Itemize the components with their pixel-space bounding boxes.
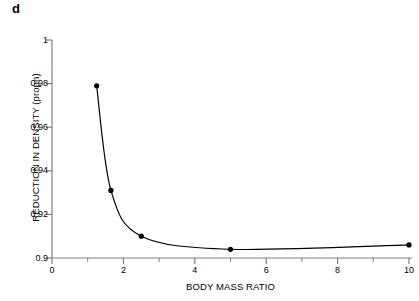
x-tick-label: 0 [37,266,67,275]
x-tick-label: 4 [180,266,210,275]
x-tick-label: 2 [108,266,138,275]
x-tick-label: 6 [251,266,281,275]
x-tick-label-group: 0246810 [0,0,419,301]
x-tick-label: 8 [323,266,353,275]
x-tick-label: 10 [394,266,419,275]
figure-panel-d: d REDUCTION IN DENSITY (propn) BODY MASS… [0,0,419,301]
